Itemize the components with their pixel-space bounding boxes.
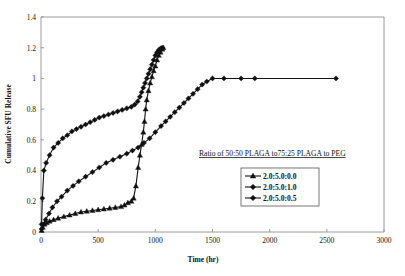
data-point-diamond bbox=[106, 112, 111, 117]
data-point-triangle bbox=[144, 97, 149, 102]
data-point-diamond bbox=[47, 153, 52, 158]
data-point-diamond bbox=[124, 151, 129, 156]
data-point-diamond bbox=[120, 107, 125, 112]
y-axis-tick-labels: 00.20.40.60.811.21.4 bbox=[27, 13, 37, 237]
y-tick-label: 1.4 bbox=[27, 13, 37, 22]
data-point-diamond bbox=[142, 80, 147, 85]
y-tick-label: 0.2 bbox=[27, 197, 37, 206]
data-point-diamond bbox=[117, 154, 122, 159]
data-point-diamond bbox=[78, 124, 83, 129]
data-point-diamond bbox=[141, 85, 146, 90]
data-point-triangle bbox=[141, 129, 146, 134]
x-tick-label: 2500 bbox=[319, 236, 334, 245]
data-point-diamond bbox=[124, 106, 129, 111]
data-point-diamond bbox=[115, 109, 120, 114]
y-axis-title: Cumulative SFU Release bbox=[4, 84, 13, 164]
data-point-triangle bbox=[131, 195, 136, 200]
data-point-triangle bbox=[143, 106, 148, 111]
data-point-diamond bbox=[97, 115, 102, 120]
data-point-diamond bbox=[137, 94, 142, 99]
data-point-diamond bbox=[83, 122, 88, 127]
data-point-diamond bbox=[130, 148, 135, 153]
x-tick-label: 500 bbox=[93, 236, 105, 245]
data-point-diamond bbox=[210, 76, 215, 81]
data-point-diamond bbox=[110, 110, 115, 115]
data-point-diamond bbox=[44, 160, 49, 165]
x-axis-tick-labels: 050010001500200025003000 bbox=[39, 236, 392, 245]
data-point-diamond bbox=[146, 71, 151, 76]
plot-frame bbox=[41, 17, 384, 232]
data-point-triangle bbox=[136, 165, 141, 170]
legend-item-label: 2.0:5.0:0.5 bbox=[263, 194, 297, 203]
y-tick-label: 0 bbox=[32, 228, 36, 237]
legend-item-label: 2.0:5.0:0.0 bbox=[263, 172, 297, 181]
y-tick-label: 0.8 bbox=[27, 105, 37, 114]
data-point-diamond bbox=[101, 113, 106, 118]
series-line bbox=[42, 48, 164, 231]
y-tick-label: 1.2 bbox=[27, 44, 37, 53]
data-point-diamond bbox=[333, 76, 338, 81]
chart-svg: 050010001500200025003000 00.20.40.60.811… bbox=[0, 0, 405, 276]
data-point-triangle bbox=[137, 152, 142, 157]
data-point-triangle bbox=[146, 88, 151, 93]
data-point-diamond bbox=[144, 76, 149, 81]
data-point-triangle bbox=[133, 183, 138, 188]
legend-title: Ratio of 50:50 PLAGA to75:25 PLAGA to PE… bbox=[199, 149, 346, 158]
chart-container: 050010001500200025003000 00.20.40.60.811… bbox=[0, 0, 405, 276]
chart-legend: Ratio of 50:50 PLAGA to75:25 PLAGA to PE… bbox=[199, 149, 346, 206]
data-point-diamond bbox=[221, 76, 226, 81]
x-tick-label: 3000 bbox=[377, 236, 392, 245]
plot-border bbox=[41, 17, 384, 232]
y-tick-label: 0.6 bbox=[27, 136, 37, 145]
x-tick-label: 0 bbox=[39, 236, 43, 245]
data-point-diamond bbox=[41, 168, 46, 173]
data-point-diamond bbox=[110, 157, 115, 162]
y-tick-label: 1 bbox=[32, 74, 36, 83]
x-tick-label: 1500 bbox=[205, 236, 220, 245]
series-line bbox=[42, 48, 163, 225]
data-point-diamond bbox=[88, 120, 93, 125]
data-point-diamond bbox=[46, 211, 51, 216]
data-point-diamond bbox=[74, 127, 79, 132]
legend-item-label: 2.0:5.0:1.0 bbox=[263, 183, 297, 192]
data-point-triangle bbox=[142, 119, 147, 124]
data-point-diamond bbox=[238, 76, 243, 81]
data-point-triangle bbox=[148, 80, 153, 85]
data-point-diamond bbox=[92, 117, 97, 122]
x-tick-label: 2000 bbox=[262, 236, 277, 245]
data-point-diamond bbox=[139, 90, 144, 95]
data-point-diamond bbox=[252, 76, 257, 81]
y-tick-label: 0.4 bbox=[27, 166, 37, 175]
x-axis-title: Time (hr) bbox=[188, 255, 219, 264]
x-tick-label: 1000 bbox=[148, 236, 163, 245]
